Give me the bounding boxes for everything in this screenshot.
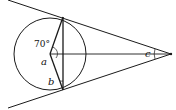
label-a: a [41,56,47,67]
label-c: c [145,48,151,59]
radius-top [50,17,63,54]
tangent-line-bottom [8,54,171,108]
geometry-diagram: 70° a b c [0,0,176,110]
vertex-point [170,53,172,55]
tangent-line-top [8,0,171,54]
angle-arc-70 [53,47,58,58]
label-b: b [48,76,54,87]
label-70-degrees: 70° [34,39,50,49]
